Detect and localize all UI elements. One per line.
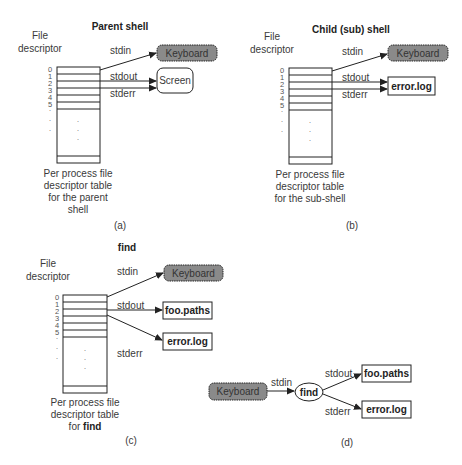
svg-text:·: ·: [77, 126, 80, 135]
svg-text:error.log: error.log: [167, 336, 208, 347]
fd-numbers: 0 1 2 3 4 5 · · ·: [280, 66, 284, 136]
fd-numbers: 0 1 2 3 4 5 · · ·: [55, 293, 59, 363]
panel-a-label: (a): [114, 220, 126, 231]
svg-text:·: ·: [77, 117, 80, 126]
svg-text:foo.paths: foo.paths: [165, 305, 210, 316]
fd-header-line1: File: [264, 31, 281, 42]
svg-text:·: ·: [56, 334, 59, 343]
fd-header-line2: descriptor: [250, 44, 295, 55]
svg-text:find: find: [300, 387, 318, 398]
svg-text:·: ·: [56, 344, 59, 353]
stdin-label: stdin: [117, 266, 138, 277]
panel-d-label: (d): [341, 437, 353, 448]
panel-c: find File descriptor 0 1 2 3 4 5 · · · ·…: [26, 242, 223, 446]
svg-text:·: ·: [281, 117, 284, 126]
error-log-box: error.log: [388, 77, 435, 95]
panel-a: Parent shell File descriptor 0 1 2 3 4 5…: [18, 21, 217, 231]
svg-text:·: ·: [309, 118, 312, 127]
stderr-arrow: [107, 315, 162, 340]
svg-text:for the parent: for the parent: [48, 192, 108, 203]
svg-text:·: ·: [77, 135, 80, 144]
stdout-label: stdout: [110, 71, 137, 82]
keyboard-box: Keyboard: [388, 45, 448, 61]
svg-text:·: ·: [84, 364, 87, 373]
panel-d: Keyboard stdin find stdout stderr foo.pa…: [209, 365, 411, 448]
fd-header-line1: File: [40, 258, 57, 269]
panel-c-title: find: [118, 242, 136, 253]
panel-b-label: (b): [346, 220, 358, 231]
fd-header-line2: descriptor: [26, 271, 71, 282]
foo-paths-box: foo.paths: [362, 365, 411, 382]
svg-text:Per process file: Per process file: [276, 169, 345, 180]
svg-text:for the sub-shell: for the sub-shell: [274, 193, 345, 204]
error-log-box: error.log: [163, 333, 212, 350]
svg-text:error.log: error.log: [391, 81, 432, 92]
svg-text:·: ·: [281, 127, 284, 136]
svg-text:Per process file: Per process file: [44, 168, 113, 179]
fd-header-line2: descriptor: [18, 43, 63, 54]
svg-text:·: ·: [309, 136, 312, 145]
screen-box: Screen: [157, 68, 193, 93]
fd-table: [63, 295, 107, 393]
find-process-node: find: [295, 383, 323, 401]
panel-c-label: (c): [125, 435, 137, 446]
stderr-label: stderr: [325, 406, 351, 417]
svg-text:Per process file: Per process file: [51, 397, 120, 408]
svg-text:Keyboard: Keyboard: [397, 48, 440, 59]
fd-numbers: 0 1 2 3 4 5 · · ·: [48, 65, 52, 135]
foo-paths-box: foo.paths: [163, 302, 212, 319]
error-log-box: error.log: [362, 401, 411, 418]
stdin-label: stdin: [110, 45, 131, 56]
panel-a-caption: Per process file descriptor table for th…: [44, 168, 113, 215]
svg-text:Keyboard: Keyboard: [172, 268, 215, 279]
svg-text:Screen: Screen: [159, 75, 191, 86]
svg-text:Keyboard: Keyboard: [166, 48, 209, 59]
stderr-label: stderr: [110, 88, 136, 99]
stderr-label: stderr: [117, 348, 143, 359]
panel-b-caption: Per process file descriptor table for th…: [274, 169, 345, 204]
panel-b: Child (sub) shell File descriptor 0 1 2 …: [250, 24, 448, 231]
keyboard-box: Keyboard: [209, 383, 267, 400]
svg-text:shell: shell: [68, 204, 89, 215]
fd-table: [289, 68, 332, 164]
svg-text:descriptor table: descriptor table: [276, 181, 345, 192]
panel-a-title: Parent shell: [92, 21, 149, 32]
svg-text:·: ·: [49, 126, 52, 135]
svg-text:·: ·: [49, 106, 52, 115]
stdout-label: stdout: [325, 368, 352, 379]
stdout-label: stdout: [117, 300, 144, 311]
stdout-label: stdout: [342, 72, 369, 83]
svg-text:descriptor table: descriptor table: [51, 409, 120, 420]
svg-text:descriptor table: descriptor table: [44, 180, 113, 191]
svg-text:·: ·: [309, 127, 312, 136]
svg-text:·: ·: [84, 355, 87, 364]
panel-b-title: Child (sub) shell: [312, 24, 390, 35]
panel-c-caption: Per process file descriptor table for fi…: [51, 397, 120, 432]
redirection-diagram: Parent shell File descriptor 0 1 2 3 4 5…: [0, 0, 462, 465]
svg-text:·: ·: [49, 116, 52, 125]
svg-text:·: ·: [281, 107, 284, 116]
svg-text:·: ·: [56, 354, 59, 363]
svg-text:for find: for find: [69, 421, 102, 432]
keyboard-box: Keyboard: [164, 265, 223, 281]
svg-text:error.log: error.log: [366, 404, 407, 415]
stderr-label: stderr: [342, 89, 368, 100]
stdin-label: stdin: [342, 46, 363, 57]
svg-text:·: ·: [84, 346, 87, 355]
keyboard-box: Keyboard: [157, 45, 217, 61]
fd-header-line1: File: [32, 30, 49, 41]
svg-text:foo.paths: foo.paths: [364, 368, 409, 379]
fd-table: [57, 67, 100, 163]
stdin-label: stdin: [271, 377, 292, 388]
svg-text:Keyboard: Keyboard: [217, 386, 260, 397]
